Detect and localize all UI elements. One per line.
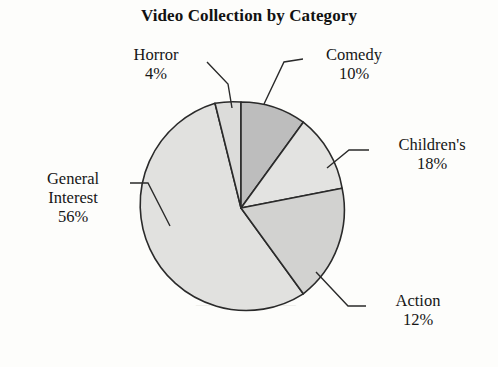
slice-label-general-interest-percent: 56%: [20, 208, 126, 227]
slice-label-general-interest: General Interest 56%: [20, 170, 126, 226]
slice-label-horror-name: Horror: [134, 45, 179, 64]
slice-label-comedy: Comedy 10%: [306, 46, 402, 84]
slice-label-action-percent: 12%: [370, 311, 466, 330]
leader-line-action: [316, 272, 366, 306]
slice-label-general-interest-name-line2: Interest: [20, 189, 126, 208]
slice-label-horror: Horror 4%: [108, 46, 204, 84]
leader-line-comedy: [264, 59, 303, 104]
slice-label-childrens: Children's 18%: [372, 136, 492, 174]
slice-label-general-interest-name-line1: General: [47, 169, 99, 188]
slice-label-action: Action 12%: [370, 292, 466, 330]
slice-label-comedy-percent: 10%: [306, 65, 402, 84]
slice-label-childrens-percent: 18%: [372, 155, 492, 174]
pie-chart-figure: Video Collection by Category — ——— —— — …: [0, 0, 498, 367]
slice-label-childrens-name: Children's: [398, 135, 465, 154]
slice-label-comedy-name: Comedy: [326, 45, 382, 64]
slice-label-horror-percent: 4%: [108, 65, 204, 84]
slice-label-action-name: Action: [396, 291, 441, 310]
